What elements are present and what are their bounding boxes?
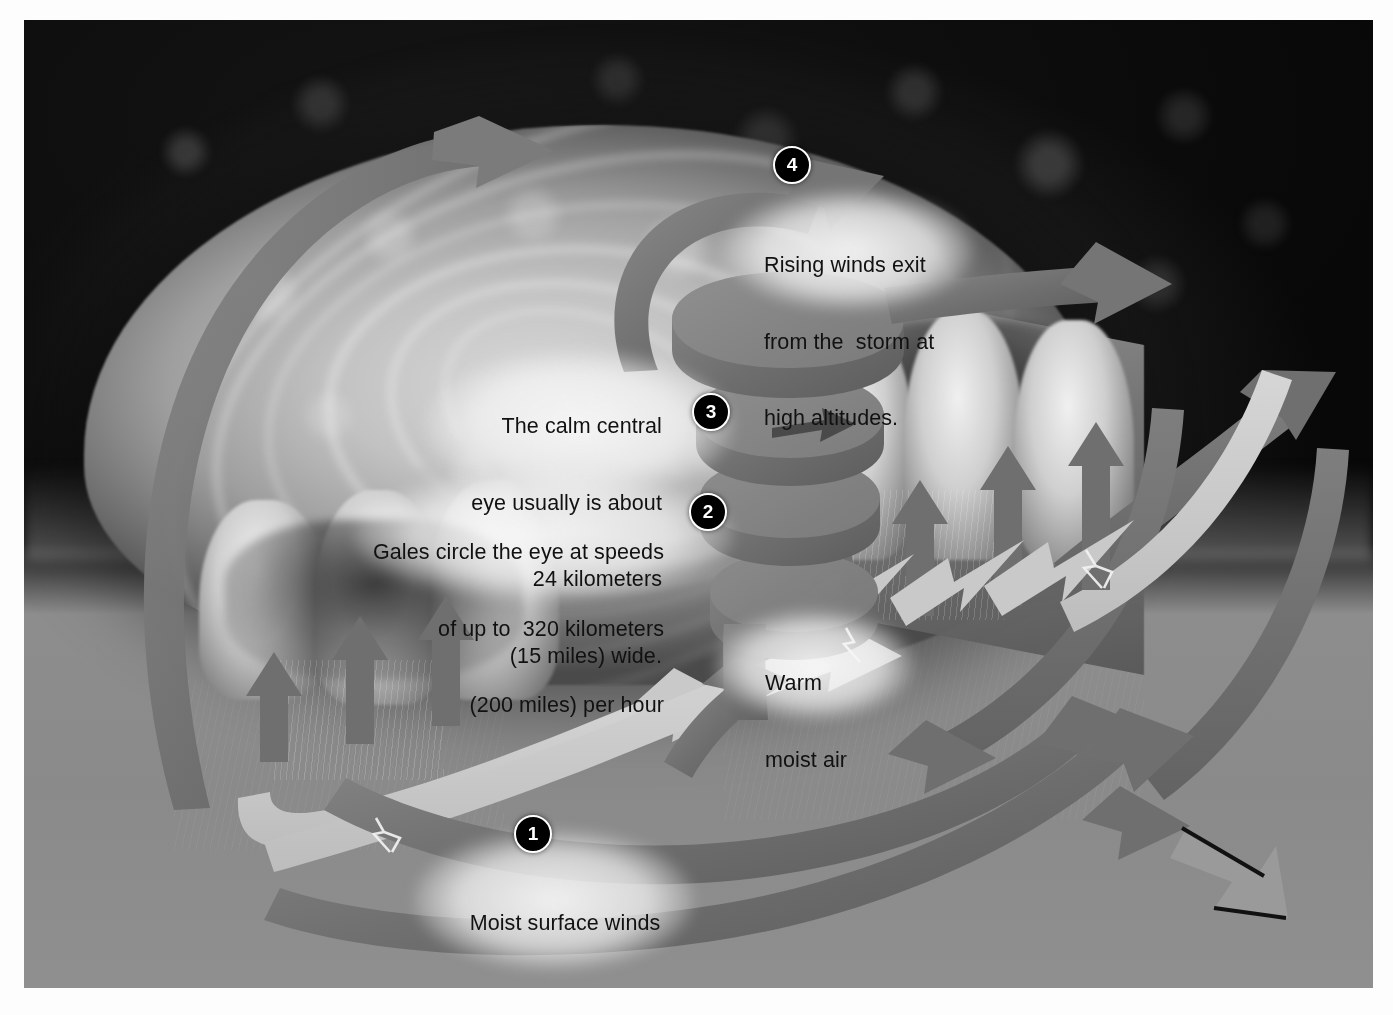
outflow-arrow-bottom-right [1170,828,1288,918]
callout-2-line-3: (200 miles) per hour [309,693,664,719]
callout-text-2: Gales circle the eye at speeds of up to … [309,489,664,770]
callout-badge-1: 1 [514,815,552,853]
callout-badge-2-number: 2 [703,501,714,523]
callout-3-line-1: The calm central [382,414,662,440]
callout-badge-3-number: 3 [706,401,717,423]
callout-4-line-1: Rising winds exit [764,253,1064,279]
callout-2-line-1: Gales circle the eye at speeds [309,540,664,566]
artwork-plate: 4 Rising winds exit from the storm at hi… [24,20,1373,988]
callout-badge-2: 2 [689,493,727,531]
callout-4-line-2: from the storm at [764,330,1064,356]
callout-badge-4: 4 [773,146,811,184]
warm-moist-air-label: Warm moist air [765,620,945,824]
callout-badge-4-number: 4 [787,154,798,176]
diagram-page: 4 Rising winds exit from the storm at hi… [0,0,1393,1015]
callout-4-line-3: high altitudes. [764,406,1064,432]
callout-1-line-1: Moist surface winds [420,911,710,937]
warm-moist-air-line-1: Warm [765,671,945,697]
callout-text-4: Rising winds exit from the storm at high… [764,202,1064,483]
warm-moist-air-line-2: moist air [765,748,945,774]
callout-badge-3: 3 [692,393,730,431]
callout-2-line-2: of up to 320 kilometers [309,617,664,643]
callout-1-line-2: spiral in toward the [420,988,710,989]
callout-text-1: Moist surface winds spiral in toward the… [420,860,710,988]
callout-badge-1-number: 1 [528,823,539,845]
